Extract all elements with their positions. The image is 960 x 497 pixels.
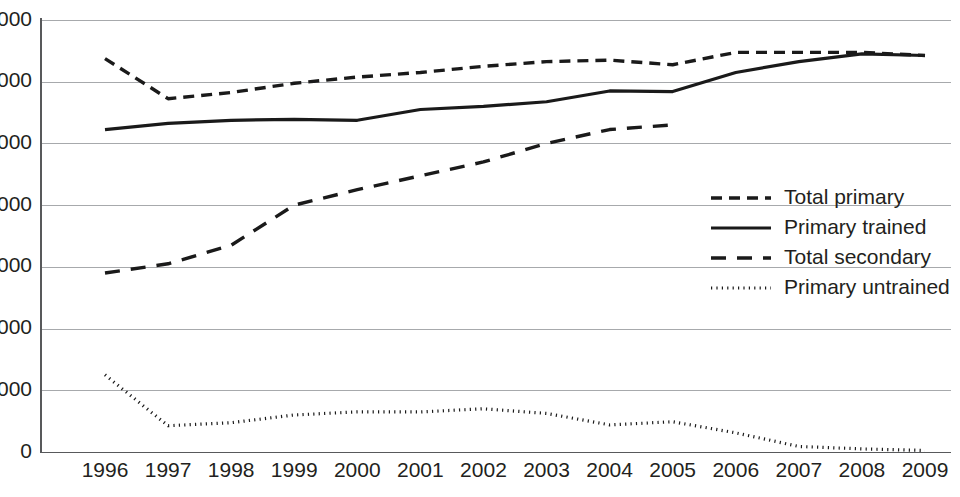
x-axis-tick-label: 2007	[775, 458, 822, 481]
series-line-total-primary	[105, 52, 925, 98]
chart-legend: Total primaryPrimary trainedTotal second…	[711, 185, 950, 298]
legend-label-total-primary: Total primary	[784, 185, 905, 208]
series-line-total-secondary	[105, 125, 673, 273]
x-axis-tick-label: 2009	[902, 458, 949, 481]
y-axis-tick-label: 0	[20, 439, 32, 462]
x-axis-tick-label: 1996	[82, 458, 129, 481]
chart-canvas: 02 0004 0006 0008 00010 00012 00014 000 …	[0, 0, 960, 497]
x-axis-tick-label: 1997	[145, 458, 192, 481]
x-axis-tick-label: 2004	[586, 458, 633, 481]
y-axis-tick-labels: 02 0004 0006 0008 00010 00012 00014 000	[0, 7, 32, 462]
line-chart: 02 0004 0006 0008 00010 00012 00014 000 …	[0, 0, 960, 497]
x-axis-tick-label: 2006	[712, 458, 759, 481]
series-line-primary-untrained	[105, 375, 925, 451]
legend-label-primary-untrained: Primary untrained	[784, 275, 950, 298]
y-axis-tick-label: 6 000	[0, 253, 32, 276]
x-axis-tick-label: 2005	[649, 458, 696, 481]
y-axis-tick-label: 14 000	[0, 7, 32, 30]
legend-label-total-secondary: Total secondary	[784, 245, 932, 268]
x-axis-tick-label: 2003	[523, 458, 570, 481]
y-axis-tick-label: 12 000	[0, 68, 32, 91]
y-axis-tick-label: 2 000	[0, 377, 32, 400]
x-axis-tick-label: 1998	[208, 458, 255, 481]
x-axis-tick-label: 2002	[460, 458, 507, 481]
x-axis-tick-label: 2008	[839, 458, 886, 481]
x-axis-tick-label: 2001	[397, 458, 444, 481]
x-axis-tick-labels: 1996199719981999200020012002200320042005…	[82, 458, 949, 481]
x-axis-tick-label: 1999	[271, 458, 318, 481]
y-axis-tick-label: 10 000	[0, 130, 32, 153]
y-axis-tick-label: 8 000	[0, 192, 32, 215]
y-axis-tick-label: 4 000	[0, 315, 32, 338]
legend-label-primary-trained: Primary trained	[784, 215, 926, 238]
x-axis-tick-label: 2000	[334, 458, 381, 481]
